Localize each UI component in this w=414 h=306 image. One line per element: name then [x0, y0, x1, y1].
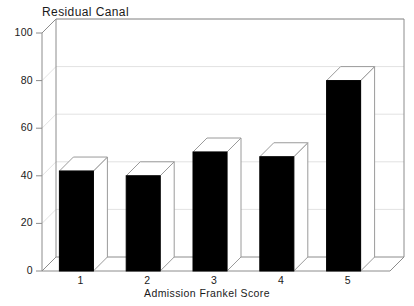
bar-front-face-1	[59, 171, 93, 271]
bar-side-face-3	[227, 138, 241, 271]
y-tick-label-60: 60	[7, 121, 33, 133]
y-axis-top-depth-line	[42, 19, 56, 33]
grid-depth-line-40	[42, 162, 56, 176]
grid-depth-line-80	[42, 67, 56, 81]
bar-front-face-2	[126, 176, 160, 271]
x-tick-label-5: 5	[328, 274, 368, 286]
bar-side-face-1	[93, 157, 107, 271]
x-tick-label-4: 4	[261, 274, 301, 286]
y-tick-label-40: 40	[7, 169, 33, 181]
bar-4	[260, 143, 308, 271]
bar-1	[59, 157, 107, 271]
grid-depth-line-20	[42, 209, 56, 223]
y-tick-label-80: 80	[7, 74, 33, 86]
x-tick-label-1: 1	[60, 274, 100, 286]
x-axis-title: Admission Frankel Score	[0, 287, 414, 299]
y-tick-label-0: 0	[7, 264, 33, 276]
x-tick-label-3: 3	[194, 274, 234, 286]
grid-depth-line-60	[42, 114, 56, 128]
bar-front-face-3	[193, 152, 227, 271]
y-tick-label-100: 100	[7, 26, 33, 38]
bar-side-face-5	[361, 67, 375, 271]
x-tick-label-2: 2	[127, 274, 167, 286]
bar-side-face-2	[160, 162, 174, 271]
bar-front-face-4	[260, 157, 294, 271]
bar-chart: Residual Canal 020406080100 12345 Admiss…	[0, 0, 414, 306]
bar-front-face-5	[327, 81, 361, 271]
bar-side-face-4	[294, 143, 308, 271]
bar-3	[193, 138, 241, 271]
chart-plot-area	[0, 0, 414, 306]
y-tick-label-20: 20	[7, 216, 33, 228]
bar-5	[327, 67, 375, 271]
bar-2	[126, 162, 174, 271]
